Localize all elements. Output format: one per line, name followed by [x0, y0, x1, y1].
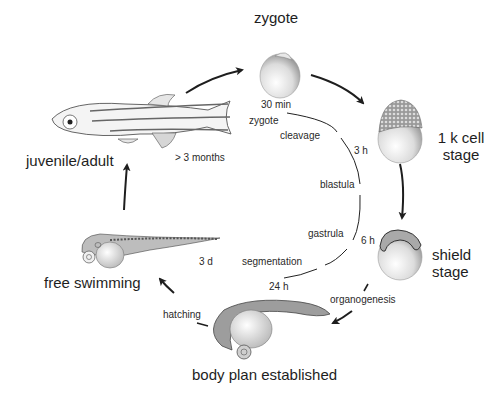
- label-hatching: hatching: [163, 310, 201, 320]
- arrow-1k-cell-to-shield: [400, 164, 403, 218]
- label-1k-cell-stage: 1 k cell stage: [430, 130, 492, 162]
- period-gastrula: gastrula: [308, 229, 344, 239]
- label-body-plan-established: body plan established: [192, 367, 337, 382]
- 1k-cell-embryo-illustration: [378, 100, 422, 163]
- arrow-hatching: [160, 279, 174, 293]
- label-juvenile-adult: juvenile/adult: [26, 153, 114, 168]
- label-1k-cell-line2: stage: [430, 147, 492, 162]
- arrow-adult-to-zygote: [186, 70, 242, 93]
- label-1k-cell-line1: 1 k cell: [430, 130, 492, 145]
- arrow-free-swimming-to-adult: [124, 165, 127, 210]
- label-shield-stage: shield stage: [432, 247, 471, 279]
- arrow-zygote-to-1k-cell: [311, 75, 363, 103]
- label-zygote: zygote: [254, 10, 298, 25]
- label-shield-line1: shield: [432, 247, 471, 262]
- label-shield-line2: stage: [432, 264, 471, 279]
- time-3-months: > 3 months: [175, 153, 225, 163]
- label-free-swimming: free swimming: [44, 275, 141, 290]
- period-zygote: zygote: [249, 116, 278, 126]
- diagram-artwork: [0, 0, 495, 396]
- time-3-h: 3 h: [354, 146, 368, 156]
- 24h-embryo-illustration: [213, 300, 330, 359]
- zygote-embryo-illustration: [260, 53, 300, 98]
- time-3-d: 3 d: [199, 257, 213, 267]
- time-6-h: 6 h: [361, 236, 375, 246]
- shield-embryo-illustration: [378, 230, 422, 280]
- label-organogenesis: organogenesis: [330, 295, 396, 305]
- period-segmentation: segmentation: [242, 257, 302, 267]
- period-cleavage: cleavage: [280, 131, 320, 141]
- zebrafish-life-cycle-diagram: zygote 1 k cell stage shield stage body …: [0, 0, 495, 396]
- time-24-h: 24 h: [269, 282, 288, 292]
- time-30-min: 30 min: [261, 100, 291, 110]
- period-blastula: blastula: [320, 180, 354, 190]
- arrow-organogenesis: [333, 311, 352, 323]
- adult-fish-illustration: [52, 94, 231, 148]
